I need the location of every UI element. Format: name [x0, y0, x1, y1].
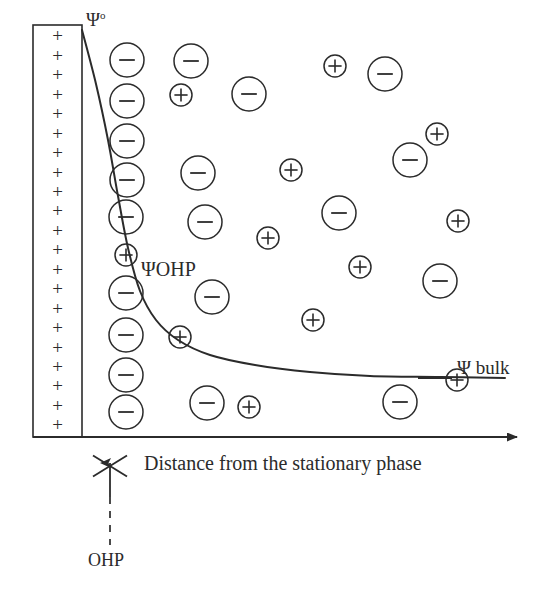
psi-bulk-label: Ψ bulk [457, 357, 510, 379]
decay-curve-path [82, 30, 505, 378]
positive-ion [302, 309, 324, 331]
negative-ion [174, 44, 208, 78]
negative-ion [190, 386, 224, 420]
positive-ion [280, 159, 302, 181]
wall-positive-charge: + [52, 278, 63, 299]
wall-positive-charge: + [52, 259, 63, 280]
wall-positive-charge: + [52, 356, 63, 377]
positive-ion [115, 244, 137, 266]
diagram-canvas: +++++++++++++++++++++ Ψo ΨOHP Ψ bulk Dis… [0, 0, 549, 597]
wall-positive-charge: + [52, 103, 63, 124]
positive-ion [170, 84, 192, 106]
wall-positive-charge: + [52, 64, 63, 85]
negative-ion [109, 276, 143, 310]
negative-ion [195, 280, 229, 314]
wall-positive-charge: + [52, 84, 63, 105]
negative-ion [393, 143, 427, 177]
positive-ion [447, 210, 469, 232]
positive-ion [426, 123, 448, 145]
wall-positive-charge: + [52, 200, 63, 221]
psi-zero-symbol: Ψ [86, 9, 100, 30]
x-axis-label: Distance from the stationary phase [144, 452, 422, 475]
negative-ion [368, 57, 402, 91]
wall-positive-charge: + [52, 181, 63, 202]
potential-decay-curve [82, 30, 505, 378]
negative-ion [110, 43, 144, 77]
ohp-marker-label: OHP [88, 550, 124, 571]
stationary-phase-wall: +++++++++++++++++++++ [33, 25, 82, 437]
wall-positive-charge: + [52, 337, 63, 358]
positive-ion [257, 227, 279, 249]
wall-positive-charge: + [52, 142, 63, 163]
positive-ion [324, 55, 346, 77]
positive-ion [238, 396, 260, 418]
wall-positive-charge: + [52, 414, 63, 435]
ohp-pointer [93, 455, 127, 545]
wall-positive-charge: + [52, 123, 63, 144]
negative-ion [110, 124, 144, 158]
wall-positive-charge: + [52, 317, 63, 338]
wall-positive-charge: + [52, 298, 63, 319]
negative-ion [322, 196, 356, 230]
negative-ion [109, 395, 143, 429]
wall-positive-charge: + [52, 220, 63, 241]
wall-positive-charge: + [52, 239, 63, 260]
wall-positive-charge: + [52, 25, 63, 46]
psi-zero-label: Ψo [86, 9, 106, 31]
negative-ion [109, 358, 143, 392]
negative-ion [109, 200, 143, 234]
negative-ion [110, 84, 144, 118]
wall-positive-charge: + [52, 375, 63, 396]
wall-positive-charge: + [52, 162, 63, 183]
negative-ion [181, 156, 215, 190]
positive-ion [349, 256, 371, 278]
negative-ion [383, 385, 417, 419]
wall-positive-charge: + [52, 45, 63, 66]
negative-ion [232, 77, 266, 111]
wall-positive-charge: + [52, 395, 63, 416]
psi-zero-superscript: o [100, 9, 106, 21]
double-layer-diagram: +++++++++++++++++++++ [0, 0, 549, 597]
psi-ohp-label: ΨOHP [141, 258, 196, 281]
negative-ion [109, 318, 143, 352]
ion-layer [109, 43, 469, 429]
negative-ion [188, 205, 222, 239]
negative-ion [423, 264, 457, 298]
